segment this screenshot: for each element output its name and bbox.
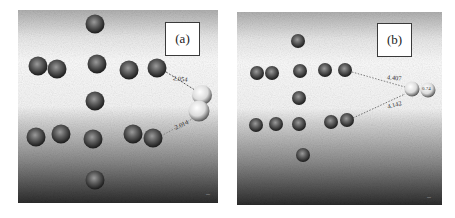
panel-b: (b) 4.407 4.142 0.74 — [237, 12, 442, 205]
metal-atom [144, 129, 163, 148]
metal-atom [324, 115, 338, 129]
hydrogen-atom [405, 82, 420, 97]
metal-atom [120, 61, 139, 80]
scale-marker: — [206, 191, 210, 196]
metal-atom [86, 171, 105, 190]
metal-atom [124, 125, 143, 144]
metal-atom [29, 57, 48, 76]
metal-atom [52, 125, 71, 144]
metal-atom [291, 34, 305, 48]
hydrogen-atom [189, 101, 210, 122]
metal-atom [48, 60, 67, 79]
panel-b-label-text: (b) [387, 32, 402, 48]
metal-atom [293, 64, 307, 78]
metal-atom [338, 63, 352, 77]
metal-atom [249, 118, 263, 132]
metal-atom [269, 117, 283, 131]
panel-a-label-text: (a) [175, 31, 189, 47]
metal-atom [27, 128, 46, 147]
metal-atom [318, 63, 332, 77]
distance-label: 4.407 [387, 73, 402, 81]
h2-bond-label: 0.74 [422, 86, 431, 91]
metal-atom [86, 15, 105, 34]
metal-atom [265, 66, 279, 80]
metal-atom [250, 66, 264, 80]
panel-a-label: (a) [165, 22, 200, 56]
metal-atom [148, 59, 167, 78]
metal-atom [292, 117, 306, 131]
metal-atom [86, 92, 105, 111]
scale-marker: — [427, 194, 431, 199]
panel-b-label: (b) [377, 23, 412, 57]
metal-atom [292, 91, 306, 105]
panel-a: (a) 2.054 2.014 — [18, 10, 218, 203]
metal-atom [340, 113, 354, 127]
metal-atom [88, 55, 107, 74]
metal-atom [296, 148, 310, 162]
metal-atom [84, 130, 103, 149]
